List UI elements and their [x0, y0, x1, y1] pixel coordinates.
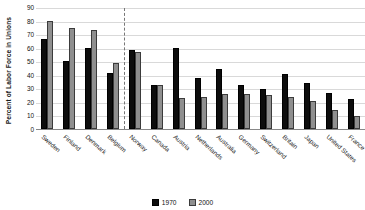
nordic-divider-line	[124, 8, 125, 129]
x-label-cell: Australia	[212, 131, 234, 189]
legend-entry-2000[interactable]: 2000	[189, 199, 214, 206]
x-label-austria: Austria	[172, 133, 191, 151]
bar-group-france	[343, 8, 365, 129]
chart-legend: 19702000	[0, 199, 365, 206]
x-label-cell: Japan	[299, 131, 321, 189]
x-label-cell: Belgium	[102, 131, 124, 189]
bar-group-austria	[168, 8, 190, 129]
x-label-cell: Austria	[168, 131, 190, 189]
x-label-cell: Germany	[233, 131, 255, 189]
bar-canada-2000	[157, 85, 163, 129]
x-label-cell: Britain	[277, 131, 299, 189]
legend-label-2000: 2000	[199, 199, 214, 206]
bar-denmark-2000	[91, 30, 97, 129]
legend-swatch-2000	[189, 199, 196, 206]
bar-norway-2000	[135, 52, 141, 129]
y-tick-label-60: 60	[27, 45, 34, 51]
x-label-japan: Japan	[304, 133, 321, 150]
union-density-bar-chart: Percent of Labor Force in Unions 0102030…	[0, 0, 365, 210]
bar-netherlands-2000	[201, 97, 207, 129]
y-tick-label-40: 40	[27, 73, 34, 79]
plot-wrapper: 0102030405060708090	[18, 8, 365, 136]
x-label-cell: France	[343, 131, 365, 189]
bar-group-japan	[299, 8, 321, 129]
bar-group-denmark	[80, 8, 102, 129]
y-tick-label-90: 90	[27, 5, 34, 11]
bar-united-states-2000	[332, 110, 338, 129]
bar-belgium-2000	[113, 63, 119, 129]
x-label-cell: Denmark	[80, 131, 102, 189]
bar-group-norway	[124, 8, 146, 129]
bar-group-united-states	[321, 8, 343, 129]
bar-finland-2000	[69, 28, 75, 129]
legend-label-1970: 1970	[162, 199, 177, 206]
x-label-france: France	[347, 133, 365, 151]
bar-group-canada	[146, 8, 168, 129]
bar-group-belgium	[102, 8, 124, 129]
x-axis-category-labels: SwedenFinlandDenmarkBelgiumNorwayCanadaA…	[36, 131, 365, 189]
bar-group-britain	[277, 8, 299, 129]
x-label-cell: Norway	[124, 131, 146, 189]
x-label-cell: Finland	[58, 131, 80, 189]
x-label-cell: Netherlands	[190, 131, 212, 189]
y-axis-tick-labels: 0102030405060708090	[18, 8, 34, 130]
y-tick-label-10: 10	[27, 113, 34, 119]
y-tick-label-30: 30	[27, 86, 34, 92]
legend-entry-1970[interactable]: 1970	[152, 199, 177, 206]
x-label-cell: Canada	[146, 131, 168, 189]
bar-france-2000	[354, 116, 360, 129]
y-tick-label-80: 80	[27, 18, 34, 24]
bar-group-finland	[58, 8, 80, 129]
bar-germany-2000	[244, 94, 250, 129]
y-axis-title: Percent of Labor Force in Unions	[0, 0, 18, 140]
bar-australia-2000	[222, 94, 228, 129]
bar-group-switzerland	[255, 8, 277, 129]
y-tick-label-0: 0	[30, 127, 34, 133]
bar-japan-2000	[310, 101, 316, 129]
plot-area	[36, 8, 365, 130]
bar-group-netherlands	[190, 8, 212, 129]
legend-swatch-1970	[152, 199, 159, 206]
bar-austria-2000	[179, 98, 185, 129]
bar-switzerland-2000	[266, 95, 272, 129]
bars-layer	[36, 8, 365, 129]
y-tick-label-50: 50	[27, 59, 34, 65]
bar-group-germany	[233, 8, 255, 129]
y-axis-title-text: Percent of Labor Force in Unions	[6, 16, 13, 123]
x-label-britain: Britain	[282, 133, 300, 150]
y-tick-label-70: 70	[27, 32, 34, 38]
x-label-cell: Switzerland	[255, 131, 277, 189]
x-label-cell: United States	[321, 131, 343, 189]
x-label-cell: Sweden	[36, 131, 58, 189]
bar-group-sweden	[36, 8, 58, 129]
y-tick-label-20: 20	[27, 100, 34, 106]
bar-group-australia	[212, 8, 234, 129]
bar-sweden-2000	[47, 21, 53, 129]
bar-britain-2000	[288, 97, 294, 129]
